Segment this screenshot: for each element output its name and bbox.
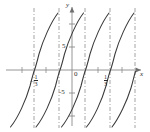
y-tick-label-5: 5 [62, 43, 66, 50]
origin-label: 0 [74, 71, 78, 78]
plot-canvas [0, 0, 150, 132]
asymptotes-group [34, 8, 135, 128]
fraction-stack: 1 3 [34, 74, 38, 87]
x-tick-label-one-third: 1 3 [103, 74, 108, 87]
x-axis-label: x [140, 71, 143, 78]
y-axis-label: y [66, 2, 69, 9]
y-tick-label-negative-5: -5 [59, 89, 65, 96]
fraction-denominator: 3 [34, 81, 38, 87]
fraction-denominator: 3 [104, 81, 108, 87]
y-axis-arrowhead [70, 7, 75, 13]
minus-sign-glyph: − [30, 78, 33, 84]
tangent-function-graph-figure: y x 0 5 -5 − 1 3 1 3 [0, 0, 150, 132]
x-tick-label-negative-one-third: − 1 3 [30, 74, 38, 87]
fraction-stack: 1 3 [104, 74, 108, 87]
curve-branch-5-partial [112, 72, 136, 128]
y-axis-group [70, 7, 75, 126]
